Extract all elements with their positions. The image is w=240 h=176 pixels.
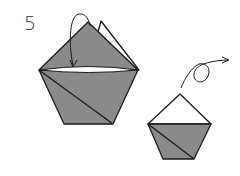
top-white-triangle: [148, 94, 211, 124]
pentagon-base: [39, 70, 138, 124]
figure-after: [148, 57, 229, 159]
origami-diagram: [0, 0, 240, 176]
turn-over-arrow-icon: [181, 60, 228, 88]
pentagon-base-small: [148, 124, 211, 159]
figure-before: [39, 14, 139, 124]
top-colored-flap: [39, 22, 138, 70]
